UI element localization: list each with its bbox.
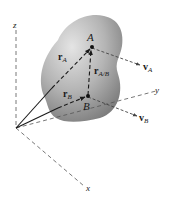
point-A-label: A — [86, 31, 94, 43]
vector-vA-label: vA — [143, 61, 153, 74]
vector-rB-sub: B — [67, 93, 72, 101]
rigid-body-diagram: z y x A B rA rB rA/B vA vB — [0, 0, 178, 200]
vector-rAB-sub: A/B — [97, 70, 109, 78]
vector-vB-sub: B — [144, 117, 149, 125]
point-B — [86, 94, 90, 98]
vector-vB-label: vB — [139, 112, 149, 125]
point-B-label: B — [83, 100, 90, 112]
vector-rA-sub: A — [61, 56, 67, 64]
y-axis-label: y — [154, 85, 159, 95]
x-axis-label: x — [85, 183, 90, 193]
rigid-body-shape — [41, 15, 122, 122]
vector-rA-solid — [16, 88, 52, 128]
x-axis — [16, 128, 84, 186]
z-axis-label: z — [12, 20, 17, 30]
vector-rB-solid — [16, 108, 58, 128]
diagram-canvas: z y x A B rA rB rA/B vA vB — [0, 0, 178, 200]
vector-vA-sub: A — [147, 66, 153, 74]
point-A — [90, 45, 94, 49]
